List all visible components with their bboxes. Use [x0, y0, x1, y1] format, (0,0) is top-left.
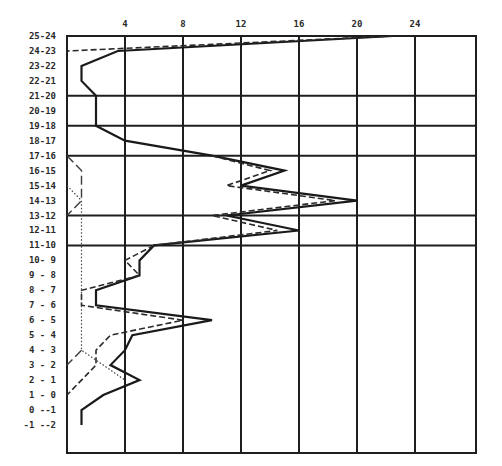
row-label: -1 --2 — [23, 420, 56, 430]
series-solid-line — [82, 36, 394, 425]
row-label: 8 - 7 — [29, 285, 56, 295]
row-label: 6 - 5 — [29, 315, 56, 325]
x-tick-label: 24 — [410, 19, 421, 29]
row-label: 12-11 — [29, 225, 56, 235]
x-axis-ticks: 4812162024 — [122, 19, 421, 29]
row-label: 0 --1 — [29, 405, 56, 415]
series-long-dashed-line — [67, 350, 82, 365]
row-label: 24-23 — [29, 46, 56, 56]
row-label: 16-15 — [29, 166, 56, 176]
series-long-dashed-line — [67, 156, 82, 216]
series-dashed-line — [67, 36, 393, 51]
x-tick-label: 20 — [352, 19, 363, 29]
row-label: 13-12 — [29, 211, 56, 221]
row-label: 15-14 — [29, 181, 57, 191]
x-tick-label: 8 — [180, 19, 185, 29]
row-label: 3 - 2 — [29, 360, 56, 370]
row-label: 4 - 3 — [29, 345, 56, 355]
row-label: 14-13 — [29, 196, 56, 206]
series-lines — [67, 36, 393, 425]
row-label: 5 - 4 — [29, 330, 57, 340]
row-label: 2 - 1 — [29, 375, 56, 385]
row-label: 25-24 — [29, 31, 57, 41]
grid — [67, 36, 476, 453]
row-label: 1 - 0 — [29, 390, 56, 400]
row-label: 19-18 — [29, 121, 56, 131]
x-tick-label: 16 — [294, 19, 305, 29]
row-label: 9 - 8 — [29, 270, 56, 280]
row-label: 21-20 — [29, 91, 56, 101]
x-tick-label: 12 — [236, 19, 247, 29]
row-label: 17-16 — [29, 151, 56, 161]
row-label: 18-17 — [29, 136, 56, 146]
row-label: 7 - 6 — [29, 300, 56, 310]
row-labels: 25-2424-2323-2222-2121-2020-1919-1818-17… — [23, 31, 56, 430]
line-chart: 4812162024 25-2424-2323-2222-2121-2020-1… — [0, 0, 502, 466]
row-label: 22-21 — [29, 76, 56, 86]
row-label: 23-22 — [29, 61, 56, 71]
row-label: 20-19 — [29, 106, 56, 116]
row-label: 10- 9 — [29, 255, 56, 265]
row-label: 11-10 — [29, 240, 56, 250]
x-tick-label: 4 — [122, 19, 128, 29]
